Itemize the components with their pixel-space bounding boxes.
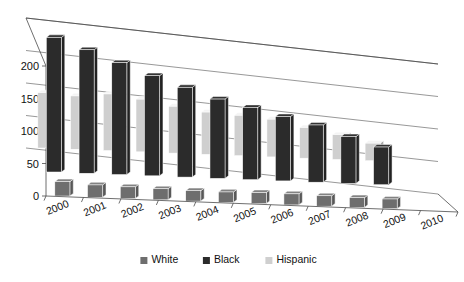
legend-swatch-black <box>203 257 210 264</box>
y-axis-label-200: 200 <box>21 60 39 72</box>
bar-front-face <box>210 99 225 178</box>
bar-black-2004 <box>177 85 195 177</box>
bar-front-face <box>275 117 290 181</box>
bars-group <box>38 35 401 209</box>
x-tick-mark <box>231 203 233 208</box>
bar-front-face <box>317 196 332 206</box>
bar-white-2008 <box>317 193 335 206</box>
bar-top-face <box>349 195 367 198</box>
column-chart-3d: 050100150200 200020012002200320042005200… <box>0 0 464 282</box>
y-axis-label-100: 100 <box>21 125 39 137</box>
legend-item-white[interactable]: White <box>140 253 178 265</box>
bar-white-2003 <box>153 186 171 200</box>
x-tick-mark <box>44 196 46 201</box>
bar-top-face <box>46 35 64 38</box>
bar-top-face <box>153 186 171 189</box>
bar-front-face <box>55 182 70 196</box>
bar-front-face <box>284 194 299 205</box>
bar-side-face <box>160 73 163 176</box>
bar-white-2006 <box>251 190 269 204</box>
legend-item-black[interactable]: Black <box>203 253 240 265</box>
bar-top-face <box>308 122 326 125</box>
bar-top-face <box>317 193 335 196</box>
x-tick-mark <box>381 209 383 214</box>
bar-top-face <box>243 105 261 108</box>
bar-side-face <box>258 105 261 180</box>
x-tick-mark <box>344 208 346 213</box>
bar-front-face <box>177 87 192 177</box>
x-axis-label-2003: 2003 <box>157 201 183 221</box>
x-axis-label-2001: 2001 <box>82 198 108 218</box>
bar-front-face <box>374 147 389 185</box>
bar-top-face <box>88 182 106 185</box>
bar-top-face <box>145 73 163 76</box>
bar-side-face <box>61 35 64 172</box>
bar-top-face <box>382 196 400 199</box>
bar-side-face <box>94 47 97 173</box>
bar-side-face <box>323 122 326 182</box>
bar-side-face <box>192 85 195 177</box>
bar-black-2005 <box>210 96 228 178</box>
x-axis-label-2009: 2009 <box>381 210 407 230</box>
legend-item-hispanic[interactable]: Hispanic <box>265 253 316 265</box>
bar-front-face <box>349 198 364 208</box>
bar-black-2002 <box>112 60 130 174</box>
bar-front-face <box>88 185 103 197</box>
bar-top-face <box>374 144 392 147</box>
bar-front-face <box>218 192 233 202</box>
floor-right-depth-edge <box>438 194 458 212</box>
bar-black-2009 <box>341 134 359 183</box>
bar-top-face <box>365 141 383 144</box>
bar-white-2002 <box>120 184 138 198</box>
legend-swatch-hispanic <box>265 257 272 264</box>
y-axis-label-50: 50 <box>27 158 39 170</box>
x-axis-label-2006: 2006 <box>269 206 295 226</box>
bar-front-face <box>382 199 397 209</box>
x-tick-mark <box>456 212 458 217</box>
top-depth-edge <box>26 18 46 66</box>
x-axis-label-2002: 2002 <box>119 200 145 220</box>
bar-side-face <box>290 114 293 181</box>
x-tick-mark <box>156 200 158 205</box>
x-axis-label-2000: 2000 <box>44 197 70 217</box>
bar-front-face <box>79 50 94 174</box>
bar-front-face <box>341 137 356 184</box>
bar-top-face <box>112 60 130 63</box>
bar-top-face <box>120 184 138 187</box>
bar-side-face <box>356 134 359 183</box>
bar-black-2000 <box>46 35 64 172</box>
bar-front-face <box>145 76 160 176</box>
x-axis-label-2008: 2008 <box>344 209 370 229</box>
bar-white-2010 <box>382 196 400 208</box>
chart-container: 050100150200 200020012002200320042005200… <box>0 0 464 282</box>
bar-white-2004 <box>186 188 204 201</box>
bar-side-face <box>70 179 73 196</box>
bar-black-2003 <box>145 73 163 176</box>
bar-white-2007 <box>284 191 302 205</box>
bar-top-face <box>341 134 359 137</box>
bar-front-face <box>112 63 127 175</box>
bar-side-face <box>389 144 392 184</box>
x-tick-mark <box>306 206 308 211</box>
bar-black-2010 <box>374 144 392 184</box>
bar-front-face <box>46 37 61 172</box>
legend-label-white: White <box>151 253 178 265</box>
bar-front-face <box>308 125 323 182</box>
bar-black-2007 <box>275 114 293 181</box>
bar-top-face <box>251 190 269 193</box>
bar-top-face <box>186 188 204 191</box>
legend-swatch-white <box>140 257 147 264</box>
bar-black-2001 <box>79 47 97 173</box>
bar-black-2006 <box>243 105 261 180</box>
x-axis-label-2010: 2010 <box>419 212 445 232</box>
legend: WhiteBlackHispanic <box>140 253 316 265</box>
legend-label-hispanic: Hispanic <box>276 253 316 265</box>
bar-front-face <box>153 189 168 200</box>
bar-top-face <box>79 47 97 50</box>
y-axis-label-150: 150 <box>21 93 39 105</box>
bar-side-face <box>127 60 130 174</box>
legend-label-black: Black <box>214 253 240 265</box>
bar-front-face <box>120 187 135 199</box>
bar-white-2009 <box>349 195 367 207</box>
bar-top-face <box>275 114 293 117</box>
